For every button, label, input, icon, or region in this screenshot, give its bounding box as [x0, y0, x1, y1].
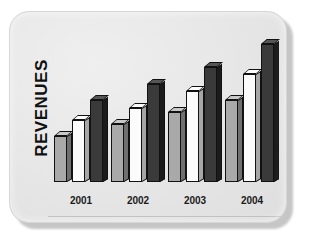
chart-stage: REVENUES — [0, 0, 309, 245]
bar-side-face — [103, 97, 108, 182]
bar-front-face — [204, 67, 217, 182]
bar-gray[interactable] — [111, 124, 124, 182]
bar-group — [54, 28, 108, 182]
bar-white[interactable] — [72, 120, 85, 182]
bar-front-face — [168, 112, 181, 182]
bar-white[interactable] — [129, 108, 142, 182]
bar-group — [111, 28, 165, 182]
bar-dark[interactable] — [90, 100, 103, 182]
bar-dark[interactable] — [204, 67, 217, 182]
bar-side-face — [217, 64, 222, 182]
bar-group — [168, 28, 222, 182]
bar-white[interactable] — [186, 91, 199, 182]
bar-front-face — [129, 108, 142, 182]
bar-group — [225, 28, 279, 182]
bar-front-face — [147, 84, 160, 182]
bar-front-face — [54, 136, 67, 182]
bar-gray[interactable] — [225, 100, 238, 182]
x-axis-tick-2004: 2004 — [225, 195, 279, 206]
bar-dark[interactable] — [261, 44, 274, 182]
chart-card: REVENUES — [9, 11, 287, 223]
bar-front-face — [261, 44, 274, 182]
plot-area: 2001 2002 2003 2004 — [48, 24, 287, 220]
bar-front-face — [90, 100, 103, 182]
bar-side-face — [274, 41, 279, 182]
bar-dark[interactable] — [147, 84, 160, 182]
bar-front-face — [243, 74, 256, 182]
x-axis-tick-2002: 2002 — [111, 195, 165, 206]
x-axis-tick-2003: 2003 — [168, 195, 222, 206]
bar-side-face — [160, 81, 165, 182]
bar-gray[interactable] — [168, 112, 181, 182]
bar-front-face — [111, 124, 124, 182]
x-axis-tick-2001: 2001 — [54, 195, 108, 206]
bar-front-face — [72, 120, 85, 182]
axis-baseline — [48, 216, 287, 217]
bar-front-face — [186, 91, 199, 182]
bar-front-face — [225, 100, 238, 182]
bar-white[interactable] — [243, 74, 256, 182]
bar-gray[interactable] — [54, 136, 67, 182]
